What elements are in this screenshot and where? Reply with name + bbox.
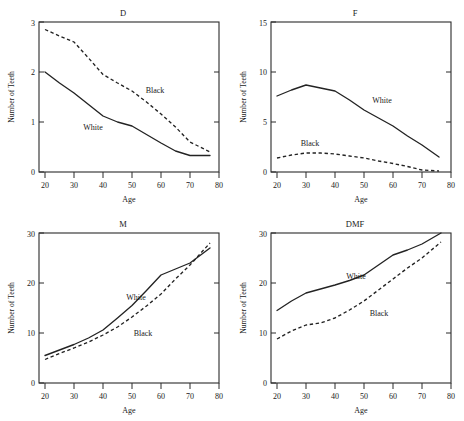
- panel-d-series-white: [45, 72, 210, 156]
- panel-f-title: F: [353, 8, 358, 18]
- panel-f-label-white: White: [372, 96, 392, 105]
- panel-d-frame: [39, 22, 219, 172]
- panel-f-y-ticks: [271, 22, 451, 172]
- panel-m-xtick-80: 80: [215, 392, 223, 401]
- panel-f-x-axis-title: Age: [354, 195, 368, 204]
- panel-d-xtick-70: 70: [186, 181, 194, 190]
- panel-d-x-axis-title: Age: [122, 195, 136, 204]
- panel-d-xtick-50: 50: [128, 181, 136, 190]
- panel-dmf-xtick-20: 20: [273, 392, 281, 401]
- panel-m-label-white: White: [126, 293, 146, 302]
- panel-f-xtick-60: 60: [389, 181, 397, 190]
- panel-f-xtick-80: 80: [447, 181, 455, 190]
- panel-d-title: D: [120, 8, 126, 18]
- panel-f-ytick-10: 10: [259, 68, 267, 77]
- panel-d-y-axis-title: Number of Teeth: [7, 71, 16, 123]
- panel-d-xtick-20: 20: [41, 181, 49, 190]
- panel-dmf-xtick-50: 50: [360, 392, 368, 401]
- panel-f-label-black: Black: [301, 139, 320, 148]
- panel-d-ytick-1: 1: [31, 118, 35, 127]
- panel-d-xtick-60: 60: [157, 181, 165, 190]
- panel-dmf-ytick-10: 10: [259, 329, 267, 338]
- panel-f-xtick-20: 20: [273, 181, 281, 190]
- panel-dmf-y-axis-title: Number of Teeth: [239, 282, 248, 334]
- panel-dmf-xtick-30: 30: [302, 392, 310, 401]
- panel-m-xtick-20: 20: [41, 392, 49, 401]
- panel-dmf-plot: DMF 0 10 20 30: [232, 211, 464, 421]
- panel-d-xtick-30: 30: [70, 181, 78, 190]
- panel-f-plot: F 0 5 10 15 20: [232, 0, 464, 210]
- panel-dmf-ytick-20: 20: [259, 279, 267, 288]
- panel-d-xtick-80: 80: [215, 181, 223, 190]
- panel-m-ytick-0: 0: [31, 379, 35, 388]
- panel-d-ytick-3: 3: [31, 19, 35, 28]
- panel-dmf-xtick-80: 80: [447, 392, 455, 401]
- panel-m-ytick-30: 30: [27, 230, 35, 239]
- panel-d-label-white: White: [83, 123, 103, 132]
- panel-f-xtick-50: 50: [360, 181, 368, 190]
- panel-m-label-black: Black: [134, 329, 153, 338]
- panel-m-plot: M 0 10 20 30 20: [0, 211, 232, 421]
- panel-dmf-label-white: White: [346, 272, 366, 281]
- panel-m-xtick-60: 60: [157, 392, 165, 401]
- panel-d-y-ticks: [39, 22, 219, 172]
- panel-d-ytick-2: 2: [31, 68, 35, 77]
- panel-dmf-xtick-60: 60: [389, 392, 397, 401]
- figure-four-panel-dental-chart: D 0 1 2 3 20: [0, 0, 464, 421]
- panel-m-x-axis-title: Age: [122, 406, 136, 415]
- panel-d: D 0 1 2 3 20: [0, 0, 232, 210]
- panel-m-ytick-10: 10: [27, 329, 35, 338]
- panel-m-xtick-50: 50: [128, 392, 136, 401]
- panel-m-y-axis-title: Number of Teeth: [7, 282, 16, 334]
- panel-dmf-ytick-0: 0: [263, 379, 267, 388]
- panel-d-x-ticks: [45, 172, 219, 178]
- panel-f-ytick-5: 5: [263, 118, 267, 127]
- panel-dmf: DMF 0 10 20 30: [232, 211, 464, 421]
- panel-f-ytick-15: 15: [259, 19, 267, 28]
- panel-dmf-xtick-70: 70: [418, 392, 426, 401]
- panel-m-xtick-40: 40: [99, 392, 107, 401]
- panel-dmf-x-axis-title: Age: [354, 406, 368, 415]
- panel-m-xtick-30: 30: [70, 392, 78, 401]
- panel-f-xtick-70: 70: [418, 181, 426, 190]
- panel-m-xtick-70: 70: [186, 392, 194, 401]
- panel-dmf-series-black: [277, 242, 441, 339]
- panel-d-ytick-0: 0: [31, 168, 35, 177]
- panel-m: M 0 10 20 30 20: [0, 211, 232, 421]
- panel-f-x-ticks: [277, 172, 451, 178]
- panel-d-plot: D 0 1 2 3 20: [0, 0, 232, 210]
- panel-f: F 0 5 10 15 20: [232, 0, 464, 210]
- panel-f-series-black: [277, 153, 439, 171]
- panel-dmf-label-black: Black: [370, 309, 389, 318]
- panel-d-label-black: Black: [146, 86, 165, 95]
- panel-f-xtick-30: 30: [302, 181, 310, 190]
- panel-f-xtick-40: 40: [331, 181, 339, 190]
- panel-dmf-title: DMF: [346, 219, 365, 229]
- panel-dmf-x-ticks: [277, 383, 451, 389]
- panel-m-title: M: [119, 219, 127, 229]
- panel-dmf-ytick-30: 30: [259, 230, 267, 239]
- panel-dmf-xtick-40: 40: [331, 392, 339, 401]
- panel-f-ytick-0: 0: [263, 168, 267, 177]
- panel-m-ytick-20: 20: [27, 279, 35, 288]
- panel-f-frame: [271, 22, 451, 172]
- panel-d-xtick-40: 40: [99, 181, 107, 190]
- panel-f-y-axis-title: Number of Teeth: [239, 71, 248, 123]
- panel-m-x-ticks: [45, 383, 219, 389]
